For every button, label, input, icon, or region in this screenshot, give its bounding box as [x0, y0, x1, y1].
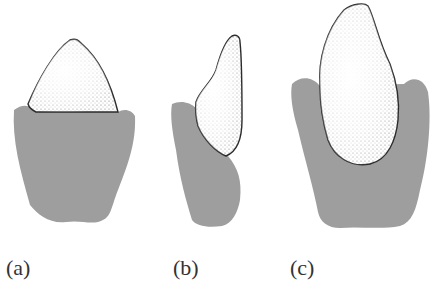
panel-a [14, 39, 135, 222]
panel-label-a: (a) [6, 255, 30, 281]
tooth-diagram [0, 0, 432, 303]
panel-c [291, 4, 429, 228]
gum-a [14, 106, 135, 223]
panel-label-c: (c) [290, 255, 314, 281]
panel-label-b: (b) [173, 255, 199, 281]
panel-b [171, 35, 242, 227]
